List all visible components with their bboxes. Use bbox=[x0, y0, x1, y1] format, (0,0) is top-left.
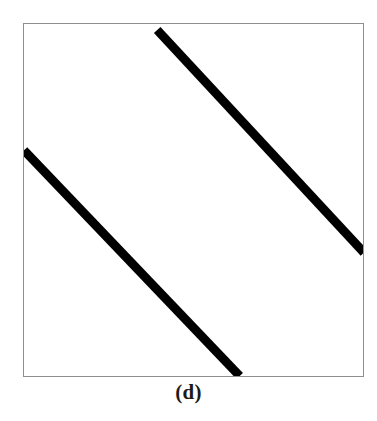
lower-diagonal-line bbox=[24, 150, 240, 376]
image-frame bbox=[23, 23, 364, 377]
diagonal-lines-canvas bbox=[24, 24, 363, 376]
upper-diagonal-line bbox=[157, 30, 363, 253]
figure-panel: (d) bbox=[0, 0, 377, 421]
figure-caption: (d) bbox=[0, 380, 377, 404]
